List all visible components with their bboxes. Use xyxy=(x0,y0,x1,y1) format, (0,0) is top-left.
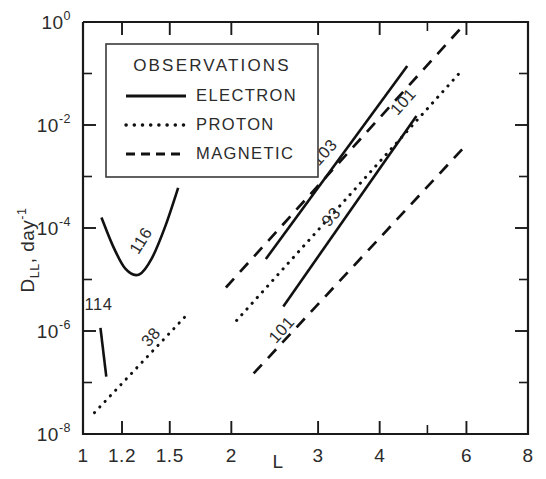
y-axis-title: DLL, day-1 xyxy=(15,208,42,293)
y-axis-title-rest: , day xyxy=(17,220,38,264)
x-tick-label: 2 xyxy=(226,445,237,466)
y-axis-title-superscript: -1 xyxy=(15,208,29,220)
x-tick-label: 4 xyxy=(374,445,385,466)
series-label-114: 114 xyxy=(85,295,113,313)
x-tick-label: 1 xyxy=(77,445,88,466)
y-axis-tick-labels: 10010-210-410-610-8 xyxy=(37,9,71,445)
y-tick-label: 100 xyxy=(41,9,71,33)
y-axis-title-main: D xyxy=(17,278,38,292)
series-label-101b: 101 xyxy=(265,313,298,347)
x-tick-label: 1.5 xyxy=(156,445,184,466)
legend: OBSERVATIONS ELECTRONPROTONMAGNETIC xyxy=(106,44,318,177)
y-tick-label: 10-2 xyxy=(37,112,71,136)
y-tick-label: 10-6 xyxy=(37,318,71,342)
x-tick-label: 3 xyxy=(313,445,324,466)
legend-label-magnetic: MAGNETIC xyxy=(196,144,294,162)
legend-label-electron: ELECTRON xyxy=(196,86,297,104)
y-tick-label: 10-4 xyxy=(37,215,71,239)
series-114 xyxy=(100,328,106,377)
x-axis-tick-labels: 11.21.523468 xyxy=(77,445,533,466)
x-tick-label: 1.2 xyxy=(108,445,136,466)
svg-text:DLL, day-1: DLL, day-1 xyxy=(15,208,42,293)
chart-canvas: 10010-210-410-610-8 11.21.523468 DLL, da… xyxy=(0,0,546,479)
series-38 xyxy=(94,315,186,412)
y-axis-title-subscript: LL xyxy=(28,263,42,278)
series-label-38: 38 xyxy=(137,323,163,349)
series-label-116: 116 xyxy=(126,224,156,257)
x-tick-label: 8 xyxy=(522,445,533,466)
figure-root: 10010-210-410-610-8 11.21.523468 DLL, da… xyxy=(0,0,546,479)
x-axis-title: L xyxy=(272,451,283,472)
y-tick-label: 10-8 xyxy=(37,421,71,445)
x-tick-label: 6 xyxy=(461,445,472,466)
legend-title: OBSERVATIONS xyxy=(133,56,291,75)
legend-label-proton: PROTON xyxy=(196,115,275,133)
